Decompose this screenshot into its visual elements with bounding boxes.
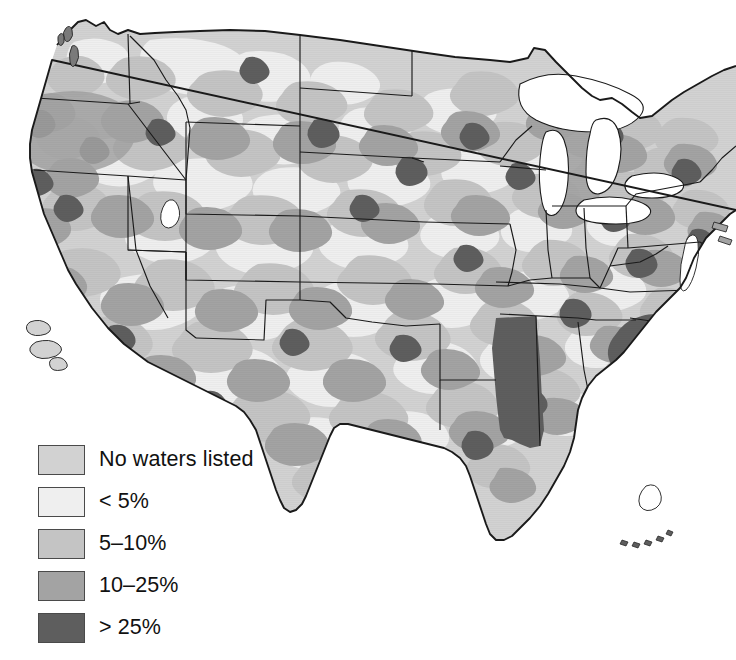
- lake-okeechobee: [639, 485, 661, 511]
- legend-label-no-waters-listed: No waters listed: [99, 449, 254, 471]
- legend-swatch-gt-25-percent: [38, 613, 85, 643]
- legend-label-lt-5-percent: < 5%: [99, 491, 149, 513]
- legend-swatch-5-to-10-percent: [38, 529, 85, 559]
- channel-islands: [26, 320, 67, 370]
- legend-label-5-to-10-percent: 5–10%: [99, 533, 166, 555]
- legend-label-10-to-25-percent: 10–25%: [99, 575, 179, 597]
- legend-item-lt-5-percent: < 5%: [38, 483, 278, 520]
- map-legend: No waters listed < 5% 5–10% 10–25% > 25%: [38, 441, 278, 651]
- legend-swatch-10-to-25-percent: [38, 571, 85, 601]
- legend-item-no-waters-listed: No waters listed: [38, 441, 278, 478]
- northeast-coast-detail: [712, 222, 732, 245]
- legend-swatch-lt-5-percent: [38, 487, 85, 517]
- lake-ontario: [625, 173, 684, 198]
- legend-item-gt-25-percent: > 25%: [38, 609, 278, 646]
- region-fill-florida: [608, 399, 660, 538]
- legend-label-gt-25-percent: > 25%: [99, 617, 161, 639]
- legend-item-5-to-10-percent: 5–10%: [38, 525, 278, 562]
- florida-keys: [620, 530, 673, 548]
- legend-item-10-to-25-percent: 10–25%: [38, 567, 278, 604]
- legend-swatch-no-waters-listed: [38, 445, 85, 475]
- map-figure: No waters listed < 5% 5–10% 10–25% > 25%: [0, 0, 736, 660]
